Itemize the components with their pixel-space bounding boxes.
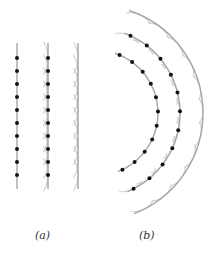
source-point-dot (46, 147, 50, 151)
source-point-dot (130, 60, 134, 64)
panel-b-label-text: (b) (139, 229, 155, 242)
source-point-dot (46, 108, 50, 112)
huygens-wavefront-diagram (0, 0, 210, 254)
source-point-dot (46, 121, 50, 125)
source-point-dot (143, 150, 147, 154)
source-point-dot (15, 82, 19, 86)
source-point-dot (120, 168, 124, 172)
source-point-dot (149, 82, 153, 86)
panel-a-label: (a) (35, 229, 50, 242)
source-point-dot (128, 34, 132, 38)
source-point-dot (15, 108, 19, 112)
source-point-dot (147, 176, 151, 180)
source-point-dot (15, 56, 19, 60)
source-point-dot (46, 69, 50, 73)
source-point-dot (155, 124, 159, 128)
panel-b-circular-waves (115, 11, 203, 214)
source-point-dot (46, 160, 50, 164)
source-point-dot (46, 173, 50, 177)
source-point-dot (15, 121, 19, 125)
wavelet-arc (193, 75, 201, 100)
source-point-dot (118, 53, 122, 57)
source-point-dot (175, 90, 179, 94)
source-point-dot (141, 70, 145, 74)
source-point-dot (145, 44, 149, 48)
wavelet-arc (194, 121, 201, 146)
circular-wavefront-1 (115, 53, 158, 172)
source-point-dot (170, 146, 174, 150)
source-point-dot (133, 160, 137, 164)
panel-b-label: (b) (139, 229, 155, 242)
source-point-dot (46, 82, 50, 86)
source-point-dot (46, 134, 50, 138)
source-point-dot (132, 187, 136, 191)
source-point-dot (161, 163, 165, 167)
source-point-dot (46, 95, 50, 99)
panel-a-plane-waves (15, 42, 78, 191)
source-point-dot (156, 109, 160, 113)
source-point-dot (169, 73, 173, 77)
source-point-dot (15, 173, 19, 177)
source-point-dot (154, 95, 158, 99)
source-point-dot (178, 109, 182, 113)
circular-wavefront-2 (124, 33, 180, 191)
source-point-dot (15, 69, 19, 73)
source-point-dot (15, 147, 19, 151)
source-point-dot (15, 95, 19, 99)
source-point-dot (158, 57, 162, 61)
source-point-dot (15, 160, 19, 164)
source-point-dot (176, 128, 180, 132)
source-point-dot (15, 134, 19, 138)
source-point-dot (150, 137, 154, 141)
panel-a-label-text: (a) (35, 229, 50, 242)
source-point-dot (46, 56, 50, 60)
